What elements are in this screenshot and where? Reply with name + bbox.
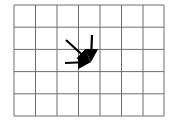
horizontal-arrow-icon [65,62,89,63]
vertical-arrow-icon [91,35,92,60]
diagonal-arrow-icon [66,40,89,61]
grid-diagram [0,0,171,121]
